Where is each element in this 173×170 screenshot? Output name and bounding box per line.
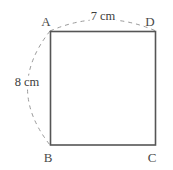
vertex-label-d: D xyxy=(145,15,154,28)
vertex-label-b: B xyxy=(44,151,53,164)
vertex-label-a: A xyxy=(41,15,50,28)
dimension-label-top: 7 cm xyxy=(90,10,117,23)
dimension-label-left: 8 cm xyxy=(14,76,41,89)
geometry-figure: A D B C 7 cm 8 cm xyxy=(0,0,173,170)
square-outline xyxy=(51,32,156,146)
vertex-label-c: C xyxy=(148,151,157,164)
